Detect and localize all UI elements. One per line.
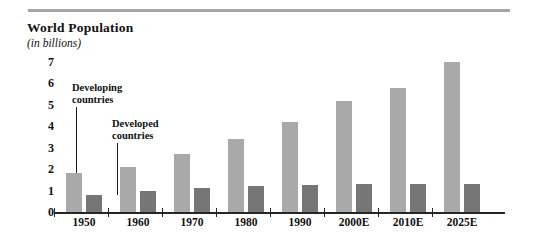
x-tick-mark-3 <box>216 208 217 217</box>
x-tick-mark-5 <box>324 208 325 217</box>
developing-bar-2025E <box>444 62 460 212</box>
developed-bar-1960 <box>140 191 156 212</box>
x-label-1980: 1980 <box>222 216 270 228</box>
annotation-developing-line1: Developing <box>72 82 122 93</box>
developing-bar-2000E <box>336 101 352 212</box>
bar-group-1990: 1990 <box>276 62 324 212</box>
x-axis-line <box>54 212 505 214</box>
x-label-1960: 1960 <box>114 216 162 228</box>
x-tick-mark-start <box>54 208 55 217</box>
decorative-top-rule <box>28 9 510 12</box>
y-tick-3: 3 <box>48 142 54 154</box>
developed-bar-2010E <box>410 184 426 212</box>
y-tick-5: 5 <box>48 99 54 111</box>
x-tick-mark-6 <box>378 208 379 217</box>
leader-line-developing <box>76 107 77 173</box>
x-tick-mark-7 <box>432 208 433 217</box>
developing-bar-2010E <box>390 88 406 212</box>
y-tick-2: 2 <box>48 163 54 175</box>
developing-bar-1980 <box>228 139 244 212</box>
developed-bar-1950 <box>86 195 102 212</box>
bar-group-1970: 1970 <box>168 62 216 212</box>
developed-bar-2000E <box>356 184 372 212</box>
x-label-1950: 1950 <box>60 216 108 228</box>
annotation-developing-line2: countries <box>72 94 113 105</box>
x-label-2000E: 2000E <box>330 216 378 228</box>
developed-bar-2025E <box>464 184 480 212</box>
annotation-developed-line1: Developed <box>112 118 159 129</box>
developing-bar-1950 <box>66 173 82 212</box>
x-tick-mark-2 <box>162 208 163 217</box>
developing-bar-1960 <box>120 167 136 212</box>
bar-group-1980: 1980 <box>222 62 270 212</box>
annotation-developing-countries: Developing countries <box>72 82 122 106</box>
annotation-developed-countries: Developed countries <box>112 118 159 142</box>
x-tick-mark-4 <box>270 208 271 217</box>
x-label-1990: 1990 <box>276 216 324 228</box>
developed-bar-1970 <box>194 188 210 212</box>
y-tick-1: 1 <box>48 185 54 197</box>
developed-bar-1980 <box>248 186 264 212</box>
x-label-2010E: 2010E <box>384 216 432 228</box>
chart-figure: World Population (in billions) 0 1 2 3 4… <box>0 0 543 240</box>
y-tick-4: 4 <box>48 120 54 132</box>
bar-group-2000E: 2000E <box>330 62 378 212</box>
developing-bar-1990 <box>282 122 298 212</box>
leader-line-developed <box>117 143 118 195</box>
y-tick-6: 6 <box>48 77 54 89</box>
x-tick-mark-1 <box>108 208 109 217</box>
x-label-1970: 1970 <box>168 216 216 228</box>
developing-bar-1970 <box>174 154 190 212</box>
developed-bar-1990 <box>302 185 318 212</box>
annotation-developed-line2: countries <box>112 130 153 141</box>
x-label-2025E: 2025E <box>438 216 486 228</box>
chart-subtitle: (in billions) <box>27 37 81 49</box>
bar-group-2025E: 2025E <box>438 62 486 212</box>
bar-group-2010E: 2010E <box>384 62 432 212</box>
page-title: World Population <box>27 20 133 36</box>
y-tick-7: 7 <box>48 56 54 68</box>
